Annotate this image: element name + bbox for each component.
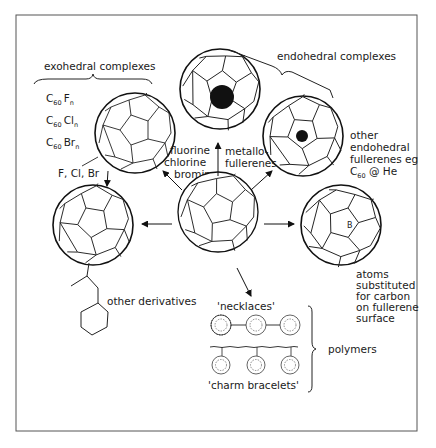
other-endohedral-label: other endohedral fullerenes eg [350,129,418,165]
substituted-atoms-label: atoms substituted for carbon on fulleren… [356,268,422,324]
derivative-fullerene [51,179,135,266]
exohedral-brace [34,74,152,84]
formula-c60brn: C60Brn [46,136,79,151]
boron-substituted-fullerene [291,172,394,276]
charm-bracelet-polymer [210,347,299,375]
necklace-polymer [211,315,300,335]
svg-text:C60Cln: C60Cln [46,114,78,129]
other-derivatives-label: other derivatives [107,295,197,307]
side-chain-cyclohexane [71,263,108,335]
svg-text:C60Fn: C60Fn [46,92,74,107]
metallofullerenes-label: metallo- fullerenes [225,145,277,169]
polymers-label: polymers [328,343,377,355]
exohedral-label: exohedral complexes [44,60,155,72]
endohedral-label: endohedral complexes [277,50,396,62]
helium-atom-core [296,130,308,142]
halogens-short-label: F, Cl, Br [58,167,100,179]
charm-bracelets-label: 'charm bracelets' [208,379,299,391]
halogenated-fullerene [95,93,175,173]
polymers-brace [308,306,316,392]
formula-c60fn: C60Fn [46,92,74,107]
arrow-to-endohedral [251,171,272,190]
c60-he-label: C60 @ He [350,165,397,180]
halogen-pointer-line [82,157,98,166]
central-c60-fullerene [177,167,259,252]
arrow-halogen-to-derivative [107,171,108,186]
svg-text:C60Brn: C60Brn [46,136,79,151]
arrow-to-polymers [237,268,251,296]
metallofullerene [174,39,268,135]
metal-atom-core [210,85,234,109]
necklaces-label: 'necklaces' [217,300,275,312]
fullerene-diagram: exohedral complexes C60Fn C60Cln C60Brn … [0,0,436,448]
boron-atom-label: B [347,221,353,230]
formula-c60cln: C60Cln [46,114,78,129]
